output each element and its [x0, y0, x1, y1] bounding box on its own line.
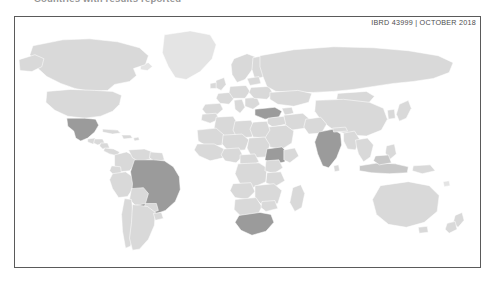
country-uruguay	[153, 212, 163, 220]
country-baltics	[247, 77, 261, 86]
country-nepal-bhutan	[333, 127, 348, 132]
world-map	[15, 17, 480, 267]
country-koreas	[387, 109, 395, 119]
country-peru	[110, 172, 134, 198]
country-australia	[372, 182, 439, 228]
country-png	[412, 165, 435, 174]
country-tasmania	[418, 226, 428, 233]
country-indonesia	[360, 163, 409, 174]
country-angola	[230, 183, 255, 200]
page-title: Countries with results reported	[34, 0, 181, 4]
map-frame: IBRD 43999 | OCTOBER 2018	[14, 16, 481, 268]
country-ukraine	[249, 86, 273, 99]
country-russia	[260, 47, 453, 93]
country-somalia	[284, 148, 299, 163]
country-italy	[234, 99, 245, 113]
country-mexico	[67, 118, 99, 141]
country-nigeria	[221, 148, 243, 163]
country-thailand-vietnam	[356, 138, 374, 162]
country-greenland	[162, 31, 216, 80]
country-pacific-isles	[443, 181, 450, 187]
country-west-africa-coast	[194, 144, 224, 161]
country-india	[315, 129, 342, 168]
country-ireland	[210, 82, 216, 88]
country-caucasus	[282, 107, 294, 115]
country-new-zealand-south	[445, 221, 457, 233]
country-zimbabwe	[261, 201, 278, 212]
country-germany-poland	[229, 85, 250, 98]
country-balkans	[245, 97, 260, 109]
country-madagascar	[290, 185, 305, 212]
country-caribbean-isles	[133, 137, 139, 141]
country-south-africa	[235, 212, 274, 235]
country-canada	[30, 39, 148, 92]
country-japan	[396, 100, 411, 121]
country-uk	[215, 78, 226, 91]
country-sri-lanka	[334, 165, 340, 172]
country-usa	[46, 89, 122, 118]
country-kazakhstan	[270, 90, 312, 106]
country-bolivia	[130, 188, 149, 206]
country-cuba	[103, 129, 121, 134]
map-credit-label: IBRD 43999 | OCTOBER 2018	[371, 18, 476, 27]
country-argentina	[130, 205, 156, 251]
country-hispaniola	[122, 135, 133, 139]
